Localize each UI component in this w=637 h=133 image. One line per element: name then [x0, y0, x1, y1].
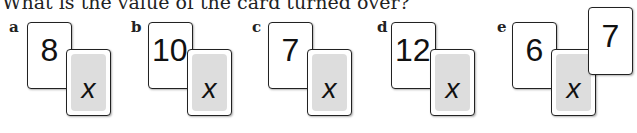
- hidden-value-e: x: [556, 54, 591, 111]
- item-label-d: d: [377, 18, 388, 36]
- item-label-c: c: [252, 18, 261, 36]
- card-back-b: x: [187, 49, 232, 116]
- card-extra-e: 7: [588, 7, 633, 75]
- hidden-value-c: x: [312, 54, 347, 111]
- hidden-value-a: x: [71, 54, 106, 111]
- item-label-e: e: [497, 18, 507, 36]
- hidden-value-b: x: [192, 54, 227, 111]
- hidden-value-d: x: [435, 54, 470, 111]
- card-back-d: x: [430, 49, 475, 116]
- card-back-c: x: [307, 49, 352, 116]
- card-back-a: x: [66, 49, 111, 116]
- item-label-a: a: [9, 18, 19, 36]
- question-text: What is the value of the card turned ove…: [2, 0, 410, 13]
- item-label-b: b: [131, 18, 142, 36]
